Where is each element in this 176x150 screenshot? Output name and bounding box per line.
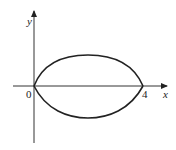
upper-curve [34, 55, 143, 86]
origin-label: 0 [26, 88, 32, 100]
x-axis-label: x [162, 88, 168, 100]
diagram-canvas: y x 0 4 [0, 0, 176, 150]
y-axis-label: y [26, 15, 32, 27]
x-tick-label-4: 4 [142, 88, 148, 100]
lower-curve [34, 86, 143, 118]
